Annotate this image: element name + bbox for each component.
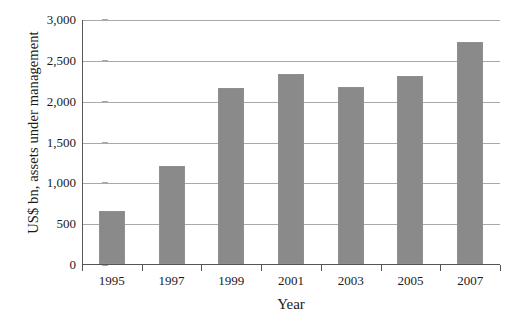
bar bbox=[338, 87, 364, 264]
x-tick-mark bbox=[261, 265, 262, 271]
y-tick-label: 0 bbox=[70, 257, 77, 273]
x-tick-label: 2005 bbox=[397, 273, 423, 289]
y-tick-label: 1,500 bbox=[47, 135, 76, 151]
bar bbox=[159, 166, 185, 264]
x-tick-mark bbox=[321, 265, 322, 271]
bars-layer bbox=[82, 20, 500, 265]
bar bbox=[397, 76, 423, 264]
x-tick-label: 2007 bbox=[457, 273, 483, 289]
y-tick-label: 500 bbox=[57, 216, 77, 232]
bar bbox=[457, 42, 483, 264]
x-tick-mark bbox=[82, 265, 83, 271]
bar bbox=[278, 74, 304, 264]
x-tick-label: 1999 bbox=[218, 273, 244, 289]
x-tick-mark bbox=[142, 265, 143, 271]
y-tick-label: 2,500 bbox=[47, 53, 76, 69]
x-tick-label: 2003 bbox=[338, 273, 364, 289]
x-tick-mark bbox=[440, 265, 441, 271]
x-tick-mark bbox=[500, 265, 501, 271]
x-tick-label: 1997 bbox=[159, 273, 185, 289]
x-axis-tick-labels: 1995199719992001200320052007 bbox=[82, 265, 500, 295]
x-tick-label: 2001 bbox=[278, 273, 304, 289]
y-tick-label: 1,000 bbox=[47, 175, 76, 191]
bar bbox=[99, 211, 125, 264]
y-axis-tick-labels: 05001,0001,5002,0002,5003,000 bbox=[26, 20, 76, 265]
x-tick-mark bbox=[201, 265, 202, 271]
x-tick-label: 1995 bbox=[99, 273, 125, 289]
y-tick-label: 3,000 bbox=[47, 12, 76, 28]
x-axis-title: Year bbox=[82, 296, 500, 313]
y-tick-label: 2,000 bbox=[47, 94, 76, 110]
bar bbox=[218, 88, 244, 264]
bar-chart: US$ bn, assets under management 05001,00… bbox=[0, 0, 521, 328]
plot-area bbox=[82, 20, 500, 265]
x-tick-mark bbox=[381, 265, 382, 271]
